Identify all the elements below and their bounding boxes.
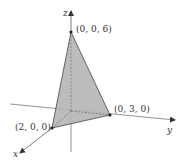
point-label-y-intercept: (0, 3, 0) [114,104,150,114]
triangle-region [52,32,110,128]
y-axis-label: y [166,125,173,135]
point-z-intercept [69,30,72,33]
diagram-canvas: z y x (0, 0, 6) (0, 3, 0) (2, 0, 0) [0,0,186,165]
point-x-intercept [50,126,53,129]
point-label-z-intercept: (0, 0, 6) [76,24,112,34]
z-axis-label: z [62,8,68,18]
point-y-intercept [108,113,111,116]
x-axis-label: x [13,149,18,159]
point-label-x-intercept: (2, 0, 0) [15,122,51,132]
